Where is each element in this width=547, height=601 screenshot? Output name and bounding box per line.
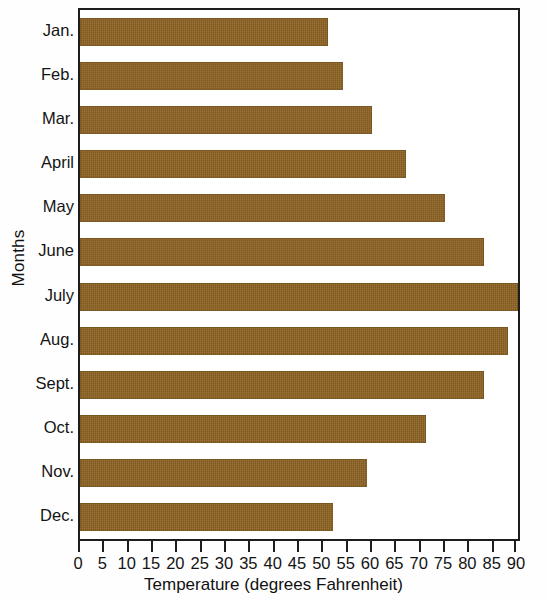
x-axis-tick <box>273 539 275 552</box>
bars-layer <box>80 10 518 539</box>
x-axis-tick-label: 25 <box>190 554 208 572</box>
x-axis-tick <box>175 539 177 552</box>
y-axis-tick-label: May <box>18 198 74 215</box>
y-axis-tick-label: Dec. <box>18 507 74 524</box>
y-axis-tick-label: Feb. <box>18 66 74 83</box>
y-axis-tick-label: June <box>18 242 74 259</box>
bar <box>80 238 484 266</box>
x-axis-tick-label: 75 <box>434 554 452 572</box>
x-axis-tick <box>467 539 469 552</box>
x-axis-tick-label: 15 <box>142 554 160 572</box>
y-axis-tick-label: Sept. <box>18 375 74 392</box>
y-axis-tick-label: Jan. <box>18 22 74 39</box>
x-axis-tick <box>321 539 323 552</box>
x-axis-tick <box>151 539 153 552</box>
bar <box>80 150 406 178</box>
x-axis-tick <box>102 539 104 552</box>
x-axis-tick <box>297 539 299 552</box>
bar-chart-figure: Months Jan.Feb.Mar.AprilMayJuneJulyAug.S… <box>0 0 547 601</box>
x-axis-tick-label: 0 <box>73 554 82 572</box>
bar <box>80 371 484 399</box>
x-axis-tick <box>492 539 494 552</box>
bar <box>80 459 367 487</box>
bar <box>80 194 445 222</box>
x-axis-tick-label: 35 <box>239 554 257 572</box>
x-axis-tick <box>248 539 250 552</box>
bar <box>80 62 343 90</box>
x-axis-tick-label: 80 <box>458 554 476 572</box>
x-axis-tick <box>370 539 372 552</box>
x-axis-tick <box>346 539 348 552</box>
x-axis-tick-label: 40 <box>263 554 281 572</box>
y-axis-tick-label: July <box>18 287 74 304</box>
x-axis-tick <box>394 539 396 552</box>
bar <box>80 283 518 311</box>
x-axis-title: Temperature (degrees Fahrenheit) <box>0 575 547 595</box>
y-axis-tick-labels: Jan.Feb.Mar.AprilMayJuneJulyAug.Sept.Oct… <box>18 8 74 537</box>
x-axis-tick <box>224 539 226 552</box>
x-axis-tick-labels: 051015202530354045505560657075808590 <box>78 554 516 576</box>
x-axis-tick-label: 85 <box>482 554 500 572</box>
bar <box>80 503 333 531</box>
x-axis-tick <box>78 539 80 552</box>
x-axis-tick <box>514 539 516 552</box>
x-axis-tick-label: 50 <box>312 554 330 572</box>
y-axis-tick-label: Oct. <box>18 419 74 436</box>
x-axis-tick-label: 60 <box>361 554 379 572</box>
bar <box>80 327 508 355</box>
y-axis-tick-label: Aug. <box>18 331 74 348</box>
x-axis-tick-label: 65 <box>385 554 403 572</box>
y-axis-tick-label: Nov. <box>18 463 74 480</box>
x-axis-tick-label: 55 <box>336 554 354 572</box>
y-axis-tick-label: Mar. <box>18 110 74 127</box>
x-axis-tick-label: 30 <box>215 554 233 572</box>
plot-area <box>78 8 520 541</box>
x-axis-tick-label: 45 <box>288 554 306 572</box>
x-axis-tick-label: 10 <box>117 554 135 572</box>
x-axis-tick <box>419 539 421 552</box>
x-axis-tick-label: 70 <box>409 554 427 572</box>
x-axis-tick <box>200 539 202 552</box>
x-axis-ticks <box>78 539 516 552</box>
x-axis-tick-label: 90 <box>507 554 525 572</box>
x-axis-tick <box>127 539 129 552</box>
x-axis-tick-label: 5 <box>98 554 107 572</box>
bar <box>80 415 426 443</box>
x-axis-tick-label: 20 <box>166 554 184 572</box>
bar <box>80 106 372 134</box>
bar <box>80 18 328 46</box>
y-axis-tick-label: April <box>18 154 74 171</box>
x-axis-tick <box>443 539 445 552</box>
